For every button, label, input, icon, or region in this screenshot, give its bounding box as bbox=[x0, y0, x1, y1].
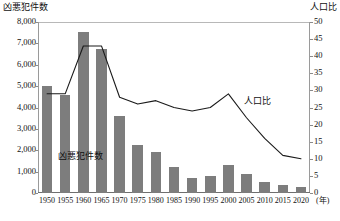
line-series-svg bbox=[38, 22, 310, 193]
x-axis-unit-label: (年) bbox=[316, 196, 329, 205]
right-axis-tick-mark bbox=[310, 125, 313, 126]
right-axis-tick-label: 20 bbox=[314, 120, 323, 129]
left-axis-tick-label: 3,000 bbox=[17, 124, 36, 133]
right-axis-tick-label: 15 bbox=[314, 137, 323, 146]
right-axis-tick-mark bbox=[310, 22, 313, 23]
left-axis-tick-label: 7,000 bbox=[17, 38, 36, 47]
right-axis-tick-label: 35 bbox=[314, 68, 323, 77]
left-axis-tick-label: 2,000 bbox=[17, 145, 36, 154]
right-axis-tick-mark bbox=[310, 176, 313, 177]
right-axis-tick-mark bbox=[310, 108, 313, 109]
right-axis-tick-label: 30 bbox=[314, 85, 323, 94]
left-axis-tick-label: 4,000 bbox=[17, 103, 36, 112]
right-axis-tick-label: 40 bbox=[314, 51, 323, 60]
right-axis-tick-label: 25 bbox=[314, 103, 323, 112]
left-axis-tick-label: 8,000 bbox=[17, 17, 36, 26]
left-axis-tick-label: 1,000 bbox=[17, 167, 36, 176]
right-axis-tick-label: 5 bbox=[314, 171, 318, 180]
line-series-inline-label: 人口比 bbox=[244, 96, 271, 106]
right-axis-tick-mark bbox=[310, 90, 313, 91]
right-axis-tick-mark bbox=[310, 142, 313, 143]
left-axis-tick-label: 6,000 bbox=[17, 60, 36, 69]
right-axis-tick-mark bbox=[310, 73, 313, 74]
left-axis-tick-label: 5,000 bbox=[17, 81, 36, 90]
right-axis-tick-label: 45 bbox=[314, 34, 323, 43]
right-axis-title: 人口比 bbox=[310, 2, 337, 13]
right-axis-tick-mark bbox=[310, 56, 313, 57]
right-axis-tick-mark bbox=[310, 159, 313, 160]
left-axis-title: 凶悪犯件数 bbox=[3, 2, 48, 13]
chart-container: 凶悪犯件数 人口比 01,0002,0003,0004,0005,0006,00… bbox=[0, 0, 340, 221]
x-axis-tick-label: 2020 bbox=[290, 196, 312, 205]
right-axis-tick-label: 10 bbox=[314, 154, 323, 163]
right-axis-tick-label: 50 bbox=[314, 17, 323, 26]
right-axis-tick-mark bbox=[310, 193, 313, 194]
left-axis-tick-mark bbox=[35, 193, 38, 194]
right-axis-tick-mark bbox=[310, 39, 313, 40]
bar-series-inline-label: 凶悪犯件数 bbox=[58, 151, 103, 161]
